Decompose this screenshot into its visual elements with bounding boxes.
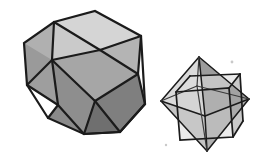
speck-lower-left-icon [165, 144, 167, 146]
cube-octahedron-compound-drawing [0, 0, 267, 162]
speck-upper-right-icon [231, 61, 234, 64]
polyhedra-figure [0, 0, 267, 162]
